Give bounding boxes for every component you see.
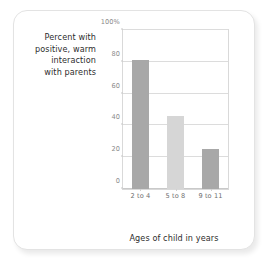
bar [202, 149, 219, 189]
y-axis-caption-line-3: interaction [10, 55, 96, 67]
x-tick-label: 5 to 8 [166, 192, 186, 200]
y-axis-caption-line-1: Percent with [10, 32, 96, 44]
y-axis-caption-line-2: positive, warm [10, 44, 96, 56]
x-tick-label: 2 to 4 [131, 192, 151, 200]
bars-layer [123, 30, 228, 189]
bar [132, 60, 149, 189]
x-tick-label: 9 to 11 [198, 192, 222, 200]
axes-frame: 020406080100% 2 to 45 to 89 to 11 [122, 29, 229, 190]
y-axis-caption-line-4: with parents [10, 67, 96, 79]
figure-root: Percent with positive, warm interaction … [0, 0, 271, 275]
y-tick-label: 20 [111, 145, 120, 153]
x-tickmark [211, 189, 212, 191]
x-axis-title: Ages of child in years [104, 233, 244, 243]
x-tickmark [140, 189, 141, 191]
y-tick-label: 80 [111, 50, 120, 58]
plot-area: 020406080100% 2 to 45 to 89 to 11 [104, 21, 229, 211]
y-tick-label: 0 [116, 177, 120, 185]
x-tickmark [176, 189, 177, 191]
y-tick-label: 100% [101, 18, 120, 26]
y-axis-caption: Percent with positive, warm interaction … [10, 32, 96, 78]
bar [167, 116, 184, 189]
y-tick-label: 40 [111, 113, 120, 121]
y-tick-label: 60 [111, 82, 120, 90]
